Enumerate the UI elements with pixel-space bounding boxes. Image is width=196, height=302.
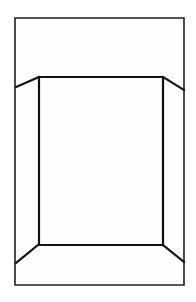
trifold-display-board-sketch bbox=[0, 0, 196, 302]
drawing-canvas-root bbox=[0, 0, 196, 302]
